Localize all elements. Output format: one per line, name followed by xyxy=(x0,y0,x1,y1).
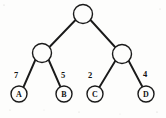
leaf-labels: A B C D xyxy=(16,90,149,99)
edge-root-right xyxy=(91,20,116,48)
edge-left-a xyxy=(24,60,36,88)
leaf-label-b: B xyxy=(61,90,67,99)
edge-weight-d: 4 xyxy=(143,69,148,79)
edge-weight-labels: 7 5 2 4 xyxy=(14,69,148,80)
internal-nodes xyxy=(33,5,132,64)
tree-canvas: A B C D 7 5 2 4 xyxy=(0,0,166,118)
edge-left-b xyxy=(49,60,61,88)
leaf-nodes xyxy=(11,86,154,102)
node-right-internal[interactable] xyxy=(113,45,132,64)
edge-weight-c: 2 xyxy=(88,70,92,80)
leaf-label-c: C xyxy=(92,90,98,99)
leaf-label-d: D xyxy=(143,90,149,99)
edge-weight-b: 5 xyxy=(61,70,65,80)
node-left-internal[interactable] xyxy=(33,44,52,63)
edge-right-c xyxy=(100,61,116,88)
edge-weight-a: 7 xyxy=(14,70,19,80)
binary-tree-diagram: A B C D 7 5 2 4 xyxy=(0,0,166,118)
edge-root-left xyxy=(49,20,76,48)
leaf-label-a: A xyxy=(16,90,22,99)
node-root[interactable] xyxy=(74,5,93,24)
edge-right-d xyxy=(129,61,143,88)
